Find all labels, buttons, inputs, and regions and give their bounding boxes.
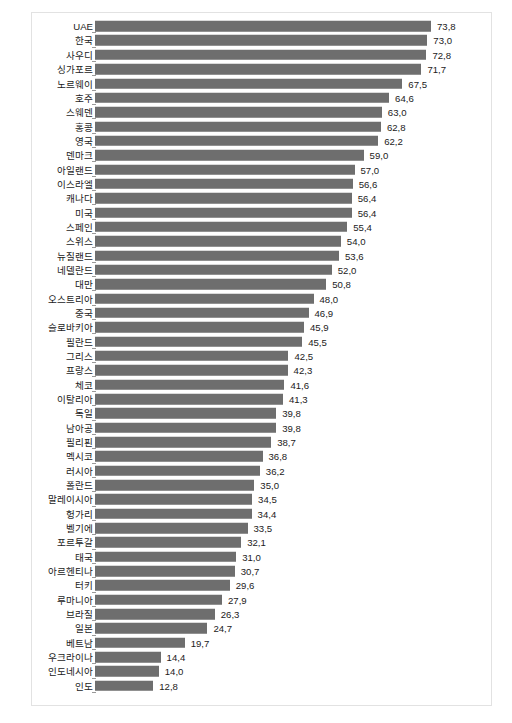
bar-value-label: 48,0 <box>320 293 339 304</box>
category-label: 헝가리 <box>66 507 93 521</box>
bar-value-label: 64,6 <box>395 92 414 103</box>
bar-value-label: 57,0 <box>361 164 380 175</box>
category-label: 인도네시아 <box>48 664 93 678</box>
bar-value-label: 35,0 <box>260 480 279 491</box>
category-label: 스위스 <box>66 234 93 248</box>
category-label: 브라질 <box>66 607 93 621</box>
bar-value-label: 24,7 <box>213 623 232 634</box>
bar-value-label: 59,0 <box>370 150 389 161</box>
bar-row: 노르웨이67,5 <box>32 76 491 90</box>
bar-value-label: 36,8 <box>269 451 288 462</box>
category-label: 터키 <box>75 578 93 592</box>
bar-row: 벨기에33,5 <box>32 521 491 535</box>
bar-value-label: 34,5 <box>258 494 277 505</box>
bar-row: 싱가포르71,7 <box>32 62 491 76</box>
bar-value-label: 26,3 <box>221 609 240 620</box>
bar-value-label: 33,5 <box>254 523 273 534</box>
bar <box>95 480 254 491</box>
bar <box>95 465 260 476</box>
category-label: 사우디 <box>66 48 93 62</box>
bar-value-label: 38,7 <box>277 437 296 448</box>
bar <box>95 422 276 433</box>
bar-row: 스웨덴63,0 <box>32 105 491 119</box>
bar-value-label: 45,9 <box>310 322 329 333</box>
bar-row: 멕시코36,8 <box>32 449 491 463</box>
category-label: 멕시코 <box>66 449 93 463</box>
bar-value-label: 39,8 <box>282 408 301 419</box>
bar <box>95 508 252 519</box>
bar-row: 슬로바키아45,9 <box>32 320 491 334</box>
bar-value-label: 39,8 <box>282 422 301 433</box>
bar <box>95 279 326 290</box>
bar-row: 베트남19,7 <box>32 636 491 650</box>
bar <box>95 293 314 304</box>
bar-value-label: 71,7 <box>427 64 446 75</box>
plot-frame: UAE73,8한국73,0사우디72,8싱가포르71,7노르웨이67,5호주64… <box>31 12 492 706</box>
bar <box>95 666 159 677</box>
category-label: 루마니아 <box>57 593 93 607</box>
bar <box>95 566 235 577</box>
bar-row: 네델란드52,0 <box>32 263 491 277</box>
bar-row: 스위스54,0 <box>32 234 491 248</box>
bar <box>95 437 271 448</box>
bar-value-label: 62,2 <box>384 135 403 146</box>
bar <box>95 365 288 376</box>
bar-value-label: 31,0 <box>242 551 261 562</box>
bar <box>95 78 402 89</box>
bar-row: 필란드45,5 <box>32 334 491 348</box>
category-label: 이스라엘 <box>57 177 93 191</box>
bar-row: 호주64,6 <box>32 91 491 105</box>
category-label: 싱가포르 <box>57 62 93 76</box>
bar-value-label: 14,4 <box>167 652 186 663</box>
bar-row: 스페인55,4 <box>32 220 491 234</box>
category-label: 인도 <box>75 679 93 693</box>
bar-value-label: 56,4 <box>358 193 377 204</box>
bar <box>95 250 339 261</box>
bar-value-label: 67,5 <box>408 78 427 89</box>
bar <box>95 408 276 419</box>
bar-value-label: 29,6 <box>236 580 255 591</box>
category-label: 러시아 <box>66 464 93 478</box>
bar <box>95 537 241 548</box>
bar-value-label: 30,7 <box>241 566 260 577</box>
bar-value-label: 41,6 <box>290 379 309 390</box>
bar-value-label: 54,0 <box>347 236 366 247</box>
bar <box>95 136 378 147</box>
bar-row: 오스트리아48,0 <box>32 291 491 305</box>
category-label: 벨기에 <box>66 521 93 535</box>
bar-row: 이스라엘56,6 <box>32 177 491 191</box>
bar-row: 독일39,8 <box>32 406 491 420</box>
bar-row: 러시아36,2 <box>32 464 491 478</box>
category-label: 태국 <box>75 550 93 564</box>
bar <box>95 222 347 233</box>
bar-value-label: 36,2 <box>266 465 285 476</box>
bar-row: 프랑스42,3 <box>32 363 491 377</box>
bar-row: 터키29,6 <box>32 578 491 592</box>
bar <box>95 451 263 462</box>
bar <box>95 523 248 534</box>
category-label: 홍콩 <box>75 120 93 134</box>
bar-value-label: 62,8 <box>387 121 406 132</box>
bar-row: 아르헨티나30,7 <box>32 564 491 578</box>
category-label: 스웨덴 <box>66 105 93 119</box>
bar-row: 포르투갈32,1 <box>32 535 491 549</box>
category-label: 아르헨티나 <box>48 564 93 578</box>
bar <box>95 394 283 405</box>
category-label: 영국 <box>75 134 93 148</box>
bar-value-label: 52,0 <box>338 264 357 275</box>
bar-value-label: 56,6 <box>359 178 378 189</box>
bar-row: 일본24,7 <box>32 621 491 635</box>
bar <box>95 580 230 591</box>
bar-value-label: 34,4 <box>258 508 277 519</box>
bar <box>95 236 341 247</box>
bar-value-label: 45,5 <box>308 336 327 347</box>
bar-value-label: 42,5 <box>294 350 313 361</box>
category-label: 베트남 <box>66 636 93 650</box>
category-label: 오스트리아 <box>48 292 93 306</box>
bar-row: 체코41,6 <box>32 378 491 392</box>
bar <box>95 179 353 190</box>
bar-row: 헝가리34,4 <box>32 507 491 521</box>
category-label: 호주 <box>75 91 93 105</box>
bar <box>95 351 288 362</box>
axis-tick-mark <box>92 692 96 693</box>
